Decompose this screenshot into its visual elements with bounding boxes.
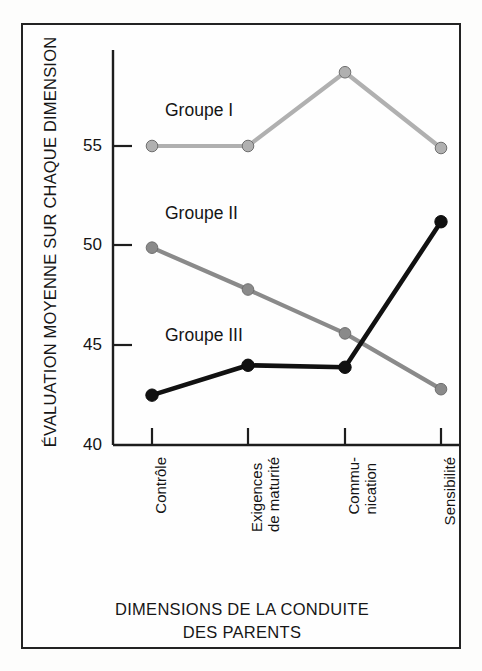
x-tick-label-1: Contrôle	[132, 455, 172, 600]
x-tick-label-2-line1: Exigences	[248, 457, 265, 532]
y-tick-40: 40	[66, 435, 102, 455]
y-tick-55: 55	[66, 136, 102, 156]
x-tick-label-2-line2: de maturité	[265, 457, 282, 532]
x-tick-labels: Contrôle Exigences de maturité Commu- ni…	[0, 455, 482, 600]
x-tick-label-2: Exigences de maturité	[228, 455, 268, 600]
x-tick-label-4-line1: Sensibilité	[441, 457, 458, 525]
figure-root: ÉVALUATION MOYENNE SUR CHAQUE DIMENSION …	[0, 0, 482, 671]
series-label-groupe-ii: Groupe II	[165, 203, 238, 224]
x-axis-title-line1: DIMENSIONS DE LA CONDUITE	[30, 598, 454, 621]
x-tick-label-3-line1: Commu-	[345, 457, 362, 515]
series-label-groupe-i: Groupe I	[165, 100, 233, 121]
x-tick-label-3: Commu- nication	[325, 455, 365, 600]
x-tick-label-1-line1: Contrôle	[152, 457, 169, 514]
x-axis-title-line2: DES PARENTS	[30, 621, 454, 644]
x-tick-label-4: Sensibilité	[421, 455, 461, 600]
x-axis-title: DIMENSIONS DE LA CONDUITE DES PARENTS	[30, 598, 454, 644]
y-tick-45: 45	[66, 335, 102, 355]
y-tick-50: 50	[66, 235, 102, 255]
x-tick-label-3-line2: nication	[362, 457, 379, 515]
series-label-groupe-iii: Groupe III	[165, 325, 243, 346]
